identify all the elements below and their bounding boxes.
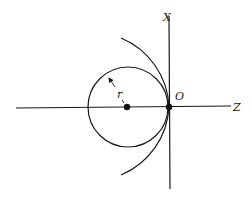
center-dot <box>124 104 130 110</box>
radius-arrow <box>109 78 115 87</box>
diagram-svg: X Z O r <box>0 0 252 197</box>
x-axis-label: X <box>162 11 172 24</box>
z-axis-label: Z <box>232 101 241 114</box>
z-axis-line <box>16 106 231 108</box>
diagram-canvas: X Z O r <box>0 0 252 197</box>
radius-tick <box>122 100 124 103</box>
radius-label: r <box>117 88 123 101</box>
origin-label: O <box>175 90 184 103</box>
origin-dot <box>166 104 172 110</box>
